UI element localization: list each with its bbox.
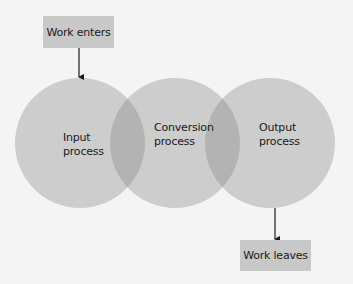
- input-process-label: Input process: [63, 131, 104, 159]
- output-process-label: Output process: [259, 121, 300, 149]
- work-leaves-box: Work leaves: [240, 240, 311, 271]
- work-enters-box: Work enters: [43, 16, 114, 48]
- conversion-process-label: Conversion process: [154, 121, 214, 149]
- work-leaves-label: Work leaves: [243, 249, 308, 262]
- work-enters-label: Work enters: [46, 26, 110, 39]
- diagram-canvas: Work enters Input process Conversion pro…: [0, 0, 353, 284]
